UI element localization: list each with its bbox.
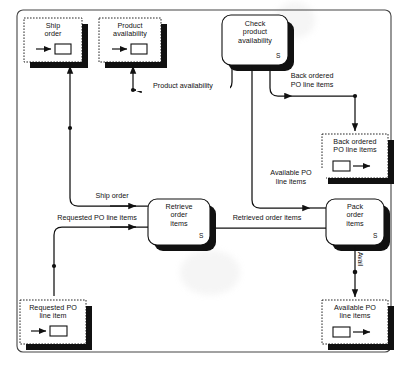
datastore-label-back-ordered-po-line-items: Back ordered PO line items — [322, 138, 388, 155]
junction-dot — [353, 270, 358, 275]
flow-label-product-availability: Product availability — [136, 82, 230, 91]
junction-dot — [131, 88, 135, 92]
process-label-check-product-availability: Check product availability — [222, 20, 288, 45]
flow-label-back-ordered: Back ordered PO line items — [272, 72, 352, 89]
datastore-label-product-availability: Product availability — [99, 22, 161, 39]
process-marker-pack-order-items: S — [373, 232, 377, 239]
flow-label-retrieved-order-items: Retrieved order items — [222, 214, 312, 223]
data-flow-diagram: Ship order Product availability Back ord… — [0, 0, 408, 375]
process-marker-retrieve-order-items: S — [199, 232, 203, 239]
process-label-pack-order-items: Pack order items — [326, 203, 384, 228]
flow-label-requested-po: Requested PO line items — [48, 214, 146, 223]
datastore-label-ship-order: Ship order — [24, 22, 82, 39]
datastore-label-requested-po-line-item: Requested PO line item — [20, 304, 86, 321]
flow-label-available-po: Available PO line items — [256, 169, 326, 186]
process-marker-check-product-availability: S — [276, 52, 280, 59]
junction-dot — [52, 264, 56, 268]
flow-requested-po-line — [54, 227, 148, 296]
datastore-label-available-po-line-items: Available PO line items — [322, 304, 388, 321]
junction-dot — [353, 94, 357, 98]
flow-label-avail: Avail — [357, 252, 364, 266]
flow-label-ship-order: Ship order — [80, 192, 144, 201]
process-label-retrieve-order-items: Retrieve order items — [148, 203, 210, 228]
junction-dot — [68, 126, 72, 130]
